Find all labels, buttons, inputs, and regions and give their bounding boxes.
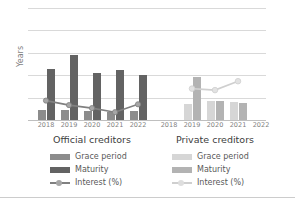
legend-private: Grace period Maturity Interest (%): [172, 150, 249, 189]
legend-marker-interest-private: [172, 180, 192, 186]
chart-root: 50 40 30 20 10 0 15 12 9 6 3 0 Years Int…: [0, 0, 295, 201]
y-axis-title: Years: [16, 46, 25, 67]
legend-swatch-grace-official: [50, 154, 70, 160]
legend-item-private-grace: Grace period: [172, 150, 249, 163]
interest-point-private-2020: [212, 87, 218, 93]
bar-official-maturity-2021: [116, 70, 124, 120]
bar-private-maturity-2020: [216, 101, 224, 120]
gridline-20: [28, 75, 266, 76]
xtick-official-2018: 2018: [34, 122, 58, 129]
bar-official-grace-2021: [107, 112, 115, 120]
legend-item-private-maturity: Maturity: [172, 163, 249, 176]
legend-swatch-maturity-official: [50, 167, 70, 173]
gridline-50: [28, 8, 266, 9]
legend-item-official-maturity: Maturity: [50, 163, 127, 176]
interest-line-official: [46, 101, 138, 113]
bottom-divider: [0, 197, 295, 198]
interest-point-private-2021: [235, 78, 241, 84]
bar-official-grace-2018: [38, 110, 46, 120]
bar-official-grace-2022: [130, 111, 138, 120]
legend-label-private-interest: Interest (%): [197, 177, 244, 188]
gridline-10: [28, 98, 266, 99]
plot-area: 50 40 30 20 10 0 15 12 9 6 3 0 Years Int…: [28, 8, 266, 120]
xtick-private-2019: 2019: [180, 122, 204, 129]
bar-private-grace-2020: [207, 101, 215, 120]
xtick-official-2019: 2019: [57, 122, 81, 129]
legend-label-official-maturity: Maturity: [75, 164, 108, 175]
xtick-private-2020: 2020: [203, 122, 227, 129]
legend-item-private-interest: Interest (%): [172, 176, 249, 189]
xtick-official-2020: 2020: [80, 122, 104, 129]
xtick-private-2022: 2022: [249, 122, 273, 129]
legend-marker-interest-official: [50, 180, 70, 186]
group-title-private: Private creditors: [155, 134, 275, 145]
xtick-private-2018: 2018: [157, 122, 181, 129]
bar-private-maturity-2019: [193, 77, 201, 120]
xtick-private-2021: 2021: [226, 122, 250, 129]
gridline-40: [28, 30, 266, 31]
legend-label-official-grace: Grace period: [75, 151, 127, 162]
bar-private-grace-2021: [230, 102, 238, 120]
legend-item-official-grace: Grace period: [50, 150, 127, 163]
legend-label-private-maturity: Maturity: [197, 164, 230, 175]
bar-official-maturity-2019: [70, 55, 78, 120]
legend-label-official-interest: Interest (%): [75, 177, 122, 188]
bar-official-maturity-2020: [93, 73, 101, 120]
bar-private-grace-2019: [184, 104, 192, 120]
xtick-official-2021: 2021: [103, 122, 127, 129]
legend-label-private-grace: Grace period: [197, 151, 249, 162]
bar-official-maturity-2018: [47, 69, 55, 121]
legend-swatch-grace-private: [172, 154, 192, 160]
xtick-official-2022: 2022: [126, 122, 150, 129]
legend-swatch-maturity-private: [172, 167, 192, 173]
bar-private-maturity-2021: [239, 103, 247, 121]
bar-official-grace-2019: [61, 110, 69, 120]
legend-official: Grace period Maturity Interest (%): [50, 150, 127, 189]
gridline-30: [28, 53, 266, 54]
legend-item-official-interest: Interest (%): [50, 176, 127, 189]
bar-official-grace-2020: [84, 111, 92, 120]
bar-official-maturity-2022: [139, 75, 147, 120]
group-title-official: Official creditors: [32, 134, 152, 145]
